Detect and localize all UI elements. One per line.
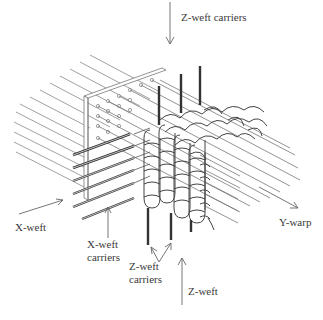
label-y-warp: Y-warp xyxy=(279,216,311,229)
arrow-x-weft xyxy=(19,200,63,214)
x-weft-carriers xyxy=(73,134,134,219)
label-z-weft-bottom: Z-weft xyxy=(188,285,218,298)
label-z-weft-carriers-top: Z-weft carriers xyxy=(181,11,247,24)
label-x-weft-carriers-line2: carriers xyxy=(87,251,120,264)
guide-plate xyxy=(84,68,166,200)
3d-weaving-diagram xyxy=(0,0,323,320)
arrow-y-warp xyxy=(259,187,298,208)
z-weft-carriers-bottom xyxy=(148,208,191,245)
label-z-weft-carriers-bottom-line2: carriers xyxy=(129,273,162,286)
z-weft-loops xyxy=(144,106,267,230)
label-x-weft: X-weft xyxy=(15,221,46,234)
label-x-weft-carriers-line1: X-weft xyxy=(87,238,118,251)
label-z-weft-carriers-bottom-line1: Z-weft xyxy=(129,260,159,273)
